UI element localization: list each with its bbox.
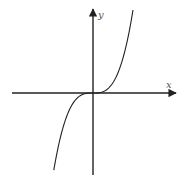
y-axis-label: y: [97, 9, 104, 20]
x-axis-label: x: [166, 79, 172, 90]
cubic-function-graph: x y: [0, 0, 186, 184]
